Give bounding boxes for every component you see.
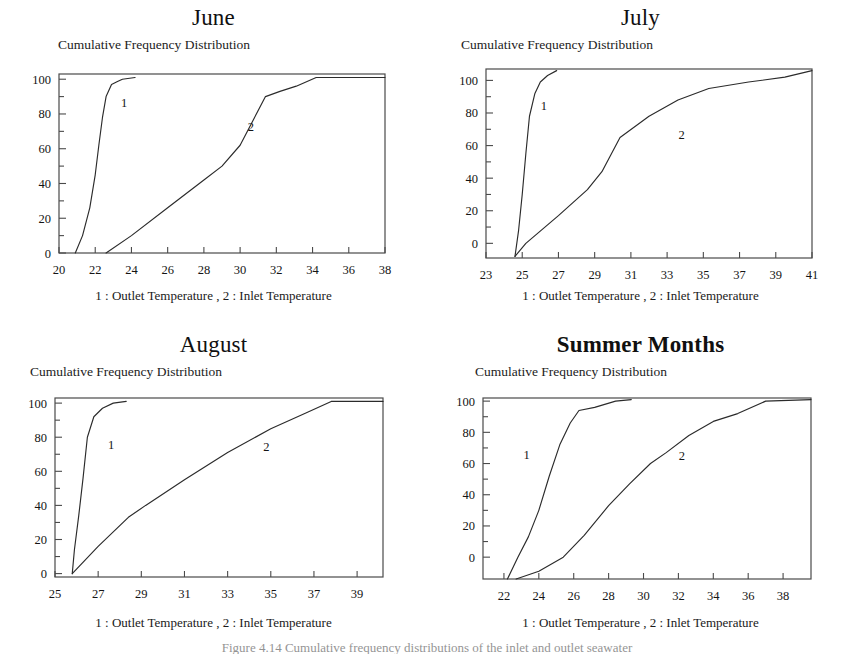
svg-text:100: 100 bbox=[32, 73, 51, 87]
svg-text:37: 37 bbox=[733, 268, 746, 282]
svg-text:80: 80 bbox=[39, 107, 52, 121]
chart-title-july: July bbox=[427, 4, 854, 32]
svg-text:24: 24 bbox=[125, 263, 138, 277]
svg-text:30: 30 bbox=[234, 263, 247, 277]
svg-text:34: 34 bbox=[306, 263, 319, 277]
svg-text:29: 29 bbox=[135, 587, 148, 601]
svg-text:20: 20 bbox=[35, 533, 48, 547]
figure-page: June Cumulative Frequency Distribution 2… bbox=[0, 0, 854, 654]
chart-subtitle-july: Cumulative Frequency Distribution bbox=[461, 37, 653, 53]
svg-text:34: 34 bbox=[707, 589, 720, 603]
svg-text:27: 27 bbox=[92, 587, 105, 601]
svg-text:37: 37 bbox=[308, 587, 321, 601]
svg-text:80: 80 bbox=[35, 431, 48, 445]
svg-text:26: 26 bbox=[567, 589, 580, 603]
svg-text:31: 31 bbox=[178, 587, 191, 601]
svg-text:38: 38 bbox=[379, 263, 392, 277]
svg-text:25: 25 bbox=[49, 587, 62, 601]
svg-text:25: 25 bbox=[516, 268, 529, 282]
svg-text:1: 1 bbox=[523, 448, 529, 462]
svg-text:35: 35 bbox=[265, 587, 278, 601]
svg-text:60: 60 bbox=[463, 457, 476, 471]
svg-text:20: 20 bbox=[39, 212, 52, 226]
svg-text:20: 20 bbox=[53, 263, 66, 277]
svg-text:60: 60 bbox=[35, 465, 48, 479]
chart-caption-july: 1 : Outlet Temperature , 2 : Inlet Tempe… bbox=[427, 288, 854, 304]
svg-text:26: 26 bbox=[161, 263, 174, 277]
chart-title-june: June bbox=[0, 4, 427, 32]
svg-text:33: 33 bbox=[661, 268, 674, 282]
svg-text:20: 20 bbox=[463, 519, 476, 533]
svg-text:39: 39 bbox=[351, 587, 364, 601]
svg-text:36: 36 bbox=[343, 263, 356, 277]
chart-subtitle-august: Cumulative Frequency Distribution bbox=[30, 364, 222, 380]
svg-text:2: 2 bbox=[248, 120, 254, 134]
svg-text:27: 27 bbox=[552, 268, 565, 282]
svg-text:80: 80 bbox=[463, 426, 476, 440]
svg-text:32: 32 bbox=[672, 589, 685, 603]
svg-text:32: 32 bbox=[270, 263, 283, 277]
svg-text:60: 60 bbox=[466, 139, 479, 153]
chart-panel-summer: Summer Months Cumulative Frequency Distr… bbox=[427, 327, 854, 654]
svg-text:40: 40 bbox=[463, 488, 476, 502]
chart-caption-august: 1 : Outlet Temperature , 2 : Inlet Tempe… bbox=[0, 615, 427, 631]
svg-text:0: 0 bbox=[45, 247, 51, 261]
svg-text:1: 1 bbox=[121, 96, 127, 110]
svg-text:23: 23 bbox=[480, 268, 493, 282]
svg-text:40: 40 bbox=[466, 172, 479, 186]
svg-text:2: 2 bbox=[263, 440, 269, 454]
svg-text:80: 80 bbox=[466, 106, 479, 120]
svg-text:0: 0 bbox=[469, 551, 475, 565]
svg-text:60: 60 bbox=[39, 142, 52, 156]
svg-text:39: 39 bbox=[770, 268, 783, 282]
svg-text:20: 20 bbox=[466, 204, 479, 218]
svg-text:0: 0 bbox=[472, 237, 478, 251]
svg-text:35: 35 bbox=[697, 268, 710, 282]
svg-text:100: 100 bbox=[459, 74, 478, 88]
chart-caption-june: 1 : Outlet Temperature , 2 : Inlet Tempe… bbox=[0, 288, 427, 304]
svg-text:41: 41 bbox=[806, 268, 819, 282]
svg-text:40: 40 bbox=[35, 499, 48, 513]
svg-text:38: 38 bbox=[777, 589, 790, 603]
svg-text:2: 2 bbox=[679, 449, 685, 463]
chart-panel-july: July Cumulative Frequency Distribution 2… bbox=[427, 0, 854, 327]
chart-caption-summer: 1 : Outlet Temperature , 2 : Inlet Tempe… bbox=[427, 615, 854, 631]
svg-text:29: 29 bbox=[588, 268, 601, 282]
svg-text:33: 33 bbox=[221, 587, 234, 601]
svg-text:28: 28 bbox=[198, 263, 211, 277]
svg-text:100: 100 bbox=[28, 397, 47, 411]
svg-text:22: 22 bbox=[89, 263, 102, 277]
chart-title-august: August bbox=[0, 331, 427, 359]
svg-text:28: 28 bbox=[602, 589, 615, 603]
svg-text:2: 2 bbox=[678, 128, 684, 142]
svg-text:30: 30 bbox=[637, 589, 650, 603]
svg-text:31: 31 bbox=[625, 268, 638, 282]
svg-text:100: 100 bbox=[456, 395, 475, 409]
chart-panel-august: August Cumulative Frequency Distribution… bbox=[0, 327, 427, 654]
chart-panel-june: June Cumulative Frequency Distribution 2… bbox=[0, 0, 427, 327]
svg-text:22: 22 bbox=[498, 589, 511, 603]
chart-subtitle-june: Cumulative Frequency Distribution bbox=[58, 37, 250, 53]
svg-text:0: 0 bbox=[41, 567, 47, 581]
chart-title-summer: Summer Months bbox=[427, 331, 854, 359]
svg-text:24: 24 bbox=[533, 589, 546, 603]
svg-text:1: 1 bbox=[541, 99, 547, 113]
svg-text:36: 36 bbox=[742, 589, 755, 603]
svg-text:40: 40 bbox=[39, 177, 52, 191]
figure-bottom-caption: Figure 4.14 Cumulative frequency distrib… bbox=[0, 640, 854, 654]
chart-subtitle-summer: Cumulative Frequency Distribution bbox=[475, 364, 667, 380]
svg-text:1: 1 bbox=[108, 438, 114, 452]
